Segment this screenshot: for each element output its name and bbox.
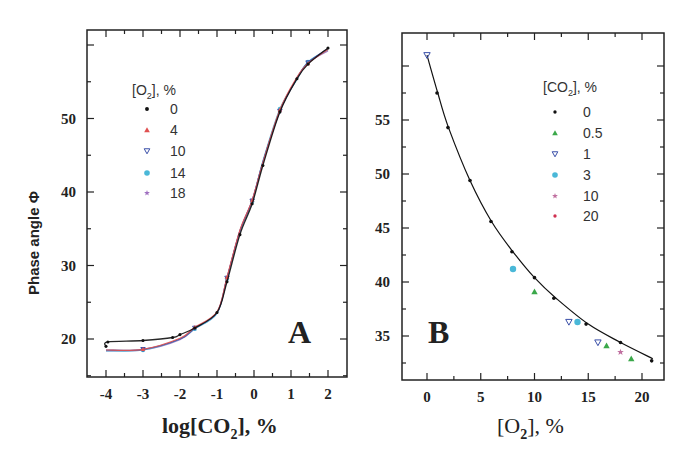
data-point-icon: [552, 296, 556, 300]
y-axis-label: Phase angle Φ: [25, 191, 42, 295]
legend-marker-icon: [553, 214, 556, 217]
data-point-icon: [595, 340, 601, 346]
data-point-icon: [435, 91, 439, 95]
legend-marker-icon: [552, 152, 558, 157]
y-tick-label: 20: [61, 331, 76, 347]
panel-b: 051015203540455055 [CO2], % 00.5131020 B…: [375, 33, 664, 442]
legend-b-label: 10: [583, 188, 599, 204]
data-point-icon: [225, 280, 228, 283]
panel-a-letter: A: [288, 314, 311, 350]
x-tick-label: 10: [527, 389, 542, 405]
x-tick-label: 15: [581, 389, 596, 405]
legend-a-label: 0: [170, 101, 178, 117]
legend-a-label: 4: [170, 122, 178, 138]
data-point-icon: [574, 319, 580, 325]
legend-a-label: 14: [170, 165, 186, 181]
data-point-icon: [104, 345, 107, 348]
legend-marker-icon: [144, 127, 150, 132]
y-tick-label: 30: [61, 258, 76, 274]
legend-b-label: 3: [583, 167, 591, 183]
legend-marker-icon: [552, 193, 558, 199]
data-point-icon: [619, 341, 623, 345]
y-tick-label: 40: [375, 274, 390, 290]
data-point-icon: [468, 179, 472, 183]
data-point-icon: [306, 63, 309, 66]
panel-b-xlabel: [O2], %: [497, 413, 564, 442]
panel-b-curves: [424, 53, 654, 363]
data-point-icon: [603, 343, 609, 349]
legend-marker-icon: [144, 190, 150, 196]
panel-a-legend: [O2], % 04101418: [132, 82, 186, 201]
x-tick-label: 5: [477, 389, 485, 405]
data-point-icon: [295, 77, 298, 80]
x-tick-label: -2: [174, 386, 187, 402]
data-point-icon: [650, 359, 654, 363]
legend-marker-icon: [552, 130, 558, 135]
legend-b-title: [CO2], %: [543, 79, 597, 98]
legend-marker-icon: [552, 172, 558, 178]
panel-a-xlabel: log[CO2], %: [162, 413, 278, 442]
data-point-icon: [510, 250, 514, 254]
y-tick-label: 55: [375, 112, 390, 128]
y-tick-label: 50: [375, 166, 390, 182]
panel-b-letter: B: [428, 314, 449, 350]
legend-marker-icon: [144, 170, 150, 176]
x-tick-label: 0: [423, 389, 431, 405]
legend-a-label: 10: [170, 143, 186, 159]
legend-marker-icon: [553, 110, 556, 113]
data-point-icon: [446, 126, 450, 130]
panel-b-legend: [CO2], % 00.5131020: [543, 79, 603, 224]
data-point-icon: [106, 340, 109, 343]
fit-curve: [427, 55, 653, 359]
data-point-icon: [326, 46, 329, 49]
x-tick-label: -1: [211, 386, 224, 402]
y-tick-label: 35: [375, 328, 390, 344]
legend-b-label: 0.5: [583, 125, 603, 141]
legend-b-label: 20: [583, 208, 599, 224]
figure-canvas: -4-3-2-101220304050 [O2], % 04101418 A l…: [0, 0, 687, 469]
legend-a-label: 18: [170, 185, 186, 201]
legend-b-label: 0: [583, 104, 591, 120]
legend-marker-icon: [145, 107, 149, 111]
data-point-icon: [278, 110, 281, 113]
legend-a-title: [O2], %: [132, 82, 176, 101]
data-point-icon: [617, 349, 624, 355]
data-point-icon: [141, 339, 144, 342]
x-tick-label: 0: [250, 386, 258, 402]
data-point-icon: [238, 233, 241, 236]
panel-a: -4-3-2-101220304050 [O2], % 04101418 A l…: [25, 30, 347, 442]
data-point-icon: [628, 355, 634, 361]
x-tick-label: -4: [100, 386, 113, 402]
x-tick-label: 1: [287, 386, 295, 402]
legend-marker-icon: [144, 149, 150, 154]
x-tick-label: 20: [635, 389, 650, 405]
data-point-icon: [489, 220, 493, 224]
data-point-icon: [251, 202, 254, 205]
x-tick-label: 2: [324, 386, 332, 402]
data-point-icon: [261, 164, 264, 167]
panel-a-tick-labels: -4-3-2-101220304050: [61, 111, 332, 403]
panel-b-tick-labels: 051015203540455055: [375, 112, 650, 405]
y-tick-label: 50: [61, 111, 76, 127]
data-point-icon: [193, 326, 196, 329]
x-tick-label: -3: [137, 386, 150, 402]
legend-b-label: 1: [583, 146, 591, 162]
data-point-icon: [171, 336, 174, 339]
data-point-icon: [510, 266, 516, 272]
data-point-icon: [533, 276, 537, 280]
data-point-icon: [566, 319, 572, 325]
data-point-icon: [178, 333, 181, 336]
data-point-icon: [531, 289, 537, 295]
data-point-icon: [584, 322, 588, 326]
data-point-icon: [215, 311, 218, 314]
y-tick-label: 45: [375, 220, 390, 236]
figure: -4-3-2-101220304050 [O2], % 04101418 A l…: [0, 0, 687, 469]
y-tick-label: 40: [61, 184, 76, 200]
